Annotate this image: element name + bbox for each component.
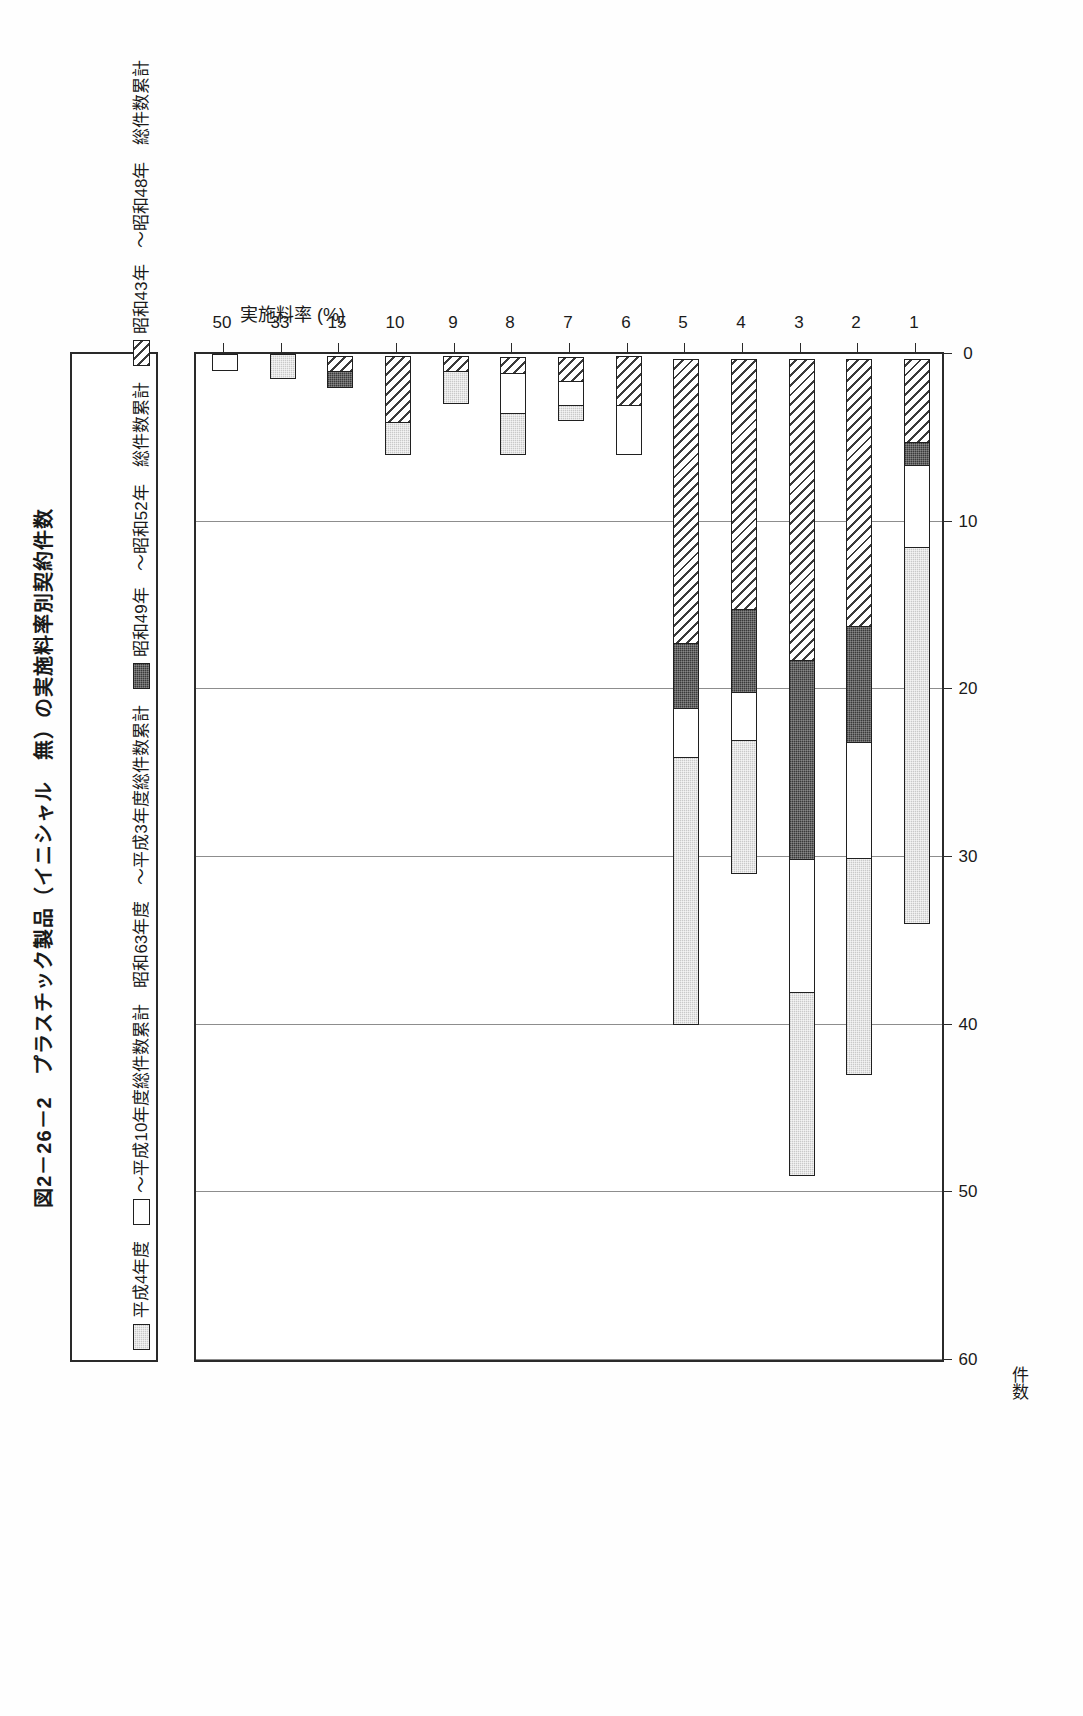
category-tick [338, 343, 339, 352]
plot-area [194, 352, 944, 1362]
category-tick [915, 343, 916, 352]
category-tick [280, 343, 281, 352]
bar-segment-white [673, 708, 699, 758]
bar-segment-white [558, 381, 584, 406]
category-tick-label: 50 [204, 313, 238, 333]
legend-item[interactable]: 昭和43年 [133, 264, 150, 366]
bar-segment-white [846, 741, 872, 858]
bar-segment-dark [846, 625, 872, 742]
legend-label: ～平成10年度総件数累計 [133, 1004, 150, 1193]
chart-canvas: 図2－26－2 プラスチック製品（イニシャル 無）の実施料率別契約件数 平成4年… [22, 38, 1062, 1678]
value-tick-label: 40 [938, 1015, 998, 1035]
category-tick-label: 10 [377, 313, 411, 333]
category-tick-label: 6 [608, 313, 642, 333]
bar-segment-gray [904, 547, 930, 924]
legend-item[interactable]: ～平成10年度総件数累計 [133, 1004, 150, 1225]
category-tick-label: 9 [435, 313, 469, 333]
legend-item[interactable]: ～平成3年度総件数累計 [133, 705, 150, 884]
bar-segment-gray [788, 991, 814, 1175]
category-tick-label: 4 [724, 313, 758, 333]
legend-label: 昭和49年 [133, 587, 150, 657]
value-axis-label-text: 件数 [1010, 1366, 1028, 1400]
category-tick [684, 343, 685, 352]
bar-segment-white [731, 691, 757, 741]
bar-segment-hatch [615, 356, 641, 406]
bar-segment-gray [442, 371, 468, 405]
bar-segment-white [788, 859, 814, 993]
value-tick-label: 20 [938, 679, 998, 699]
bar-segment-dark [904, 441, 930, 466]
category-tick [626, 343, 627, 352]
legend-item[interactable]: ～昭和48年 総件数累計 [133, 60, 150, 249]
category-tick-label: 8 [493, 313, 527, 333]
bar-6 [615, 354, 641, 455]
category-tick-label: 7 [551, 313, 585, 333]
bar-2 [846, 354, 872, 1075]
bar-7 [558, 354, 584, 421]
bar-segment-gray [500, 413, 526, 455]
bar-segment-white [500, 372, 526, 414]
legend-label: ～平成3年度総件数累計 [133, 705, 150, 884]
bar-segment-hatch [384, 356, 410, 423]
legend-label: ～昭和48年 総件数累計 [133, 60, 150, 249]
legend-swatch-white [133, 1199, 150, 1225]
bar-segment-hatch [442, 356, 468, 373]
legend-item[interactable]: 昭和49年 [133, 587, 150, 689]
legend-item[interactable]: 昭和63年度 [133, 901, 150, 988]
bar-segment-gray [731, 740, 757, 874]
bar-segment-hatch [327, 356, 353, 373]
category-tick [742, 343, 743, 352]
bar-9 [442, 354, 468, 404]
value-tick-label: 10 [938, 512, 998, 532]
bar-segment-gray [269, 354, 295, 379]
category-tick-label: 2 [839, 313, 873, 333]
legend-swatch-dark [133, 663, 150, 689]
bar-segment-hatch [846, 359, 872, 627]
category-tick [569, 343, 570, 352]
value-tick-label: 50 [938, 1182, 998, 1202]
value-tick-label: 30 [938, 847, 998, 867]
bar-series-group [196, 354, 942, 1360]
bar-segment-hatch [673, 359, 699, 644]
bar-1 [904, 354, 930, 924]
legend-item[interactable]: 平成4年度 [133, 1241, 150, 1350]
bar-segment-hatch [500, 357, 526, 374]
bar-segment-hatch [731, 359, 757, 611]
category-tick-label: 3 [781, 313, 815, 333]
category-tick [799, 343, 800, 352]
category-tick [222, 343, 223, 352]
figure-title: 図2－26－2 プラスチック製品（イニシャル 無）の実施料率別契約件数 [28, 38, 57, 1678]
bar-segment-hatch [904, 359, 930, 443]
category-tick [395, 343, 396, 352]
chart-legend: 平成4年度～平成10年度総件数累計昭和63年度～平成3年度総件数累計昭和49年～… [70, 352, 158, 1362]
legend-item[interactable]: ～昭和52年 総件数累計 [133, 382, 150, 571]
bar-33 [269, 354, 295, 379]
bar-segment-hatch [558, 357, 584, 382]
category-tick [511, 343, 512, 352]
category-tick [857, 343, 858, 352]
bar-10 [384, 354, 410, 455]
bar-segment-gray [673, 756, 699, 1024]
bar-5 [673, 354, 699, 1025]
legend-label: 昭和43年 [133, 264, 150, 334]
category-tick-label: 1 [897, 313, 931, 333]
bar-15 [327, 354, 353, 388]
category-tick-label: 5 [666, 313, 700, 333]
value-tick-label: 0 [938, 344, 998, 364]
bar-segment-dark [673, 642, 699, 709]
legend-label: ～昭和52年 総件数累計 [133, 382, 150, 571]
bar-4 [731, 354, 757, 874]
bar-segment-dark [788, 659, 814, 860]
bar-segment-gray [558, 404, 584, 421]
value-tick-label: 60 [938, 1350, 998, 1370]
bar-50 [211, 354, 237, 371]
legend-label: 昭和63年度 [133, 901, 150, 988]
legend-label: 平成4年度 [133, 1241, 150, 1318]
bar-segment-gray [846, 857, 872, 1075]
bar-3 [788, 354, 814, 1176]
category-axis-label: 実施料率 (%) [240, 300, 345, 326]
bar-segment-hatch [788, 359, 814, 661]
bar-segment-dark [327, 371, 353, 388]
bar-8 [500, 354, 526, 455]
legend-swatch-gray [133, 1324, 150, 1350]
